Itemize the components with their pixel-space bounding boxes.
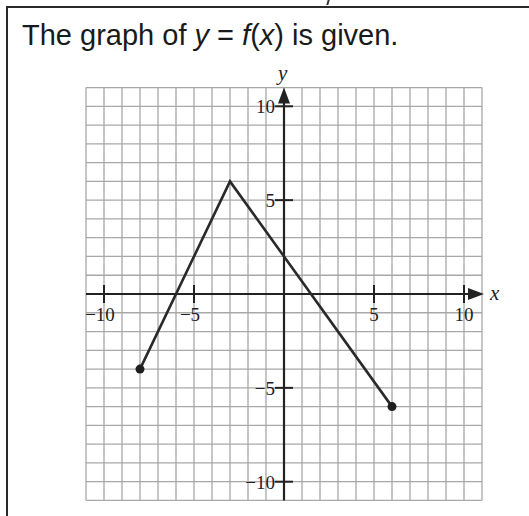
x-tick-label: −10 — [85, 304, 115, 325]
x-tick-label: 5 — [369, 304, 379, 325]
axes: xy — [86, 61, 500, 501]
y-axis-label: y — [276, 61, 288, 85]
x-tick-label: −5 — [180, 304, 200, 325]
y-tick-label: 5 — [266, 190, 276, 211]
y-axis-arrow-icon — [278, 88, 290, 104]
function-graph: xy −10−5510105−5−10 — [0, 0, 529, 516]
y-tick-label: −10 — [245, 472, 275, 493]
closed-endpoint-dot — [388, 402, 397, 411]
y-tick-label: 10 — [256, 96, 275, 117]
y-tick-label: −5 — [255, 378, 275, 399]
closed-endpoint-dot — [136, 365, 145, 374]
x-tick-label: 10 — [455, 304, 474, 325]
x-axis-label: x — [489, 281, 500, 305]
